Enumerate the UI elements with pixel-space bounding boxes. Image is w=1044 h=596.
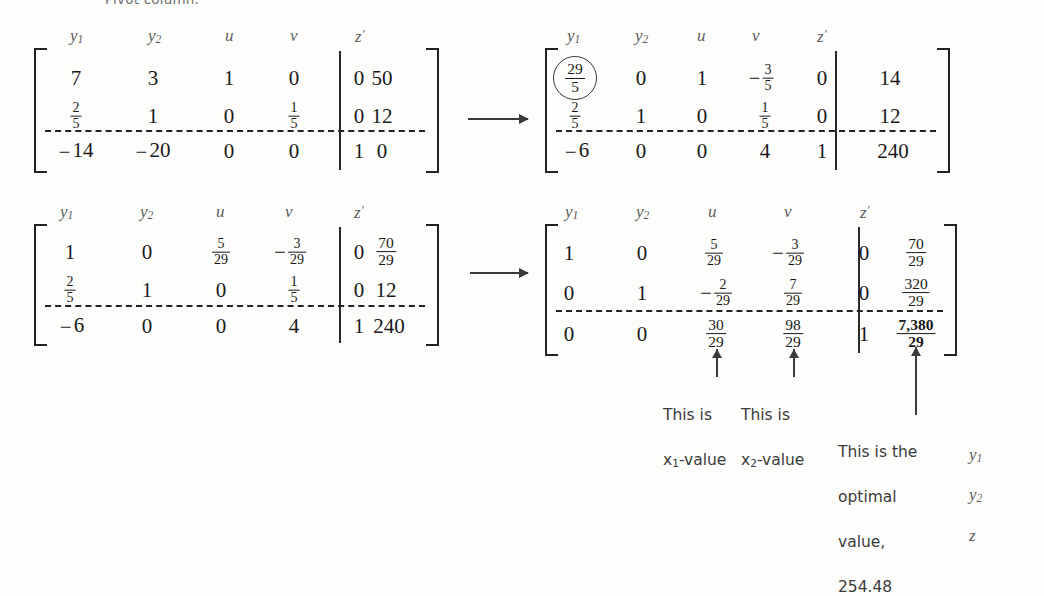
cell-r1-rhs: 12 [372,106,393,127]
cell-r2c1: 0 [636,141,647,162]
cell-r1c0: 25 [65,275,76,306]
tableau-4: y1 y2 u v z′ 1 0 529 −329 0 7029 0 1 −22… [545,202,975,356]
cell-r2c1: −20 [136,140,171,163]
cell-r1c4: 0 [817,106,828,127]
cell-r2-rhs: 240 [373,316,405,337]
cell-r0c2: 529 [705,238,723,269]
bracket-left [34,224,48,346]
col-header-zprime: z′ [355,26,364,47]
cell-r0c3: 0 [289,68,300,89]
cell-r1c3: 729 [784,278,802,309]
cell-r2c2: 3029 [706,317,726,351]
col-header-zprime: z′ [860,202,869,223]
col-header-u: u [697,26,706,46]
col-header-y1: y1 [60,202,73,222]
cell-r2c1: 0 [637,324,648,345]
tableau-1-matrix: 7 3 1 0 0 50 25 1 0 15 0 12 −14 −20 0 0 … [34,48,439,173]
cell-r0c0: 7 [71,68,82,89]
cell-r0c1: 0 [636,68,647,89]
cell-r2c3: 4 [760,141,771,162]
cell-r1c0: 25 [570,101,581,132]
cell-r0c4: 0 [817,68,828,89]
cell-r2c3: 9829 [783,317,803,351]
tableau-4-column-headers: y1 y2 u v z′ [545,202,965,224]
cell-r1c4: 0 [859,283,870,304]
objective-separator [556,310,943,312]
cell-r1c3: 15 [289,101,300,132]
callout-arrow-optimal [915,347,917,415]
tableau-3: y1 y2 u v z′ 1 0 529 −329 0 7029 25 1 0 … [34,202,439,346]
augment-rule [835,51,837,170]
transform-arrow-top [468,118,528,120]
annotation-x2-line2: x2-value [741,449,804,471]
annotation-optimal-line1: This is the [838,441,917,463]
annotation-x2-value: This is x2-value [741,382,804,494]
cell-r2c2: 0 [216,316,227,337]
cell-r0c0: 1 [564,243,575,264]
tableau-4-matrix: 1 0 529 −329 0 7029 0 1 −229 729 0 32029… [545,224,975,356]
col-header-v: v [784,202,792,222]
col-header-y1: y1 [565,202,578,222]
col-header-v: v [290,26,298,46]
cell-r0c1: 0 [637,243,648,264]
annotation-optimal-line3: value, [838,531,917,553]
cell-r0c1: 0 [142,242,153,263]
tableau-2-column-headers: y1 y2 u v z′ [545,26,965,48]
col-header-u: u [216,202,225,222]
annotation-optimal-line2: optimal [838,486,917,508]
cell-r1c4: 0 [354,280,365,301]
cell-r1c2: −229 [700,278,732,309]
cell-r2c4: 1 [817,141,828,162]
cell-r1-rhs: 32029 [902,276,929,310]
cell-r0c0: 1 [65,242,76,263]
col-header-v: v [752,26,760,46]
bracket-right [425,224,439,346]
cell-r1c3: 15 [760,101,771,132]
col-header-y1: y1 [70,26,83,46]
cell-r2c2: 0 [224,141,235,162]
cell-r1c4: 0 [354,106,365,127]
col-header-y2: y2 [635,26,648,46]
cell-r1c1: 1 [142,280,153,301]
pivot-column-caption: Pivot column. [105,0,199,7]
tableau-2: y1 y2 u v z′ 295 0 1 −35 0 14 25 1 0 15 [545,26,965,173]
cell-r0c3: −329 [274,237,306,268]
cell-r0c3: −329 [772,238,804,269]
cell-r1c3: 15 [289,275,300,306]
callout-arrow-x1 [716,349,718,377]
cell-r2-rhs: 7,38029 [897,317,936,351]
row-label-z: z [969,526,976,546]
cell-r1c2: 0 [697,106,708,127]
annotation-optimal-line4: 254.48 [838,576,917,596]
annotation-x2-line1: This is [741,404,804,426]
col-header-y2: y2 [636,202,649,222]
col-header-y1: y1 [567,26,580,46]
cell-r2c0: −6 [60,315,84,338]
cell-r2c4: 1 [354,141,365,162]
col-header-y2: y2 [148,26,161,46]
cell-r2c4: 1 [354,316,365,337]
annotation-x1-line1: This is [663,404,726,426]
objective-separator [45,130,425,132]
cell-r2c2: 0 [697,141,708,162]
annotation-optimal-value: This is the optimal value, 254.48 [838,419,917,596]
col-header-u: u [708,202,717,222]
bracket-left [34,48,48,173]
cell-r0c0: 295 [565,61,585,95]
row-label-y1: y1 [969,445,982,465]
tableau-1: y1 y2 u v z′ 7 3 1 0 0 50 25 1 0 15 0 12 [34,26,439,173]
tableau-1-column-headers: y1 y2 u v z′ [34,26,434,48]
cell-r2c4: 1 [859,324,870,345]
pivot-circle: 295 [553,56,597,100]
cell-r2-rhs: 0 [377,141,388,162]
col-header-zprime: z′ [354,202,363,223]
cell-r0-rhs: 14 [880,68,901,89]
bracket-right [943,224,957,356]
cell-r2c3: 4 [289,316,300,337]
augment-rule [339,227,341,343]
annotation-x1-value: This is x1-value [663,382,726,494]
cell-r2c0: 0 [564,324,575,345]
cell-r0c3: −35 [749,63,774,94]
cell-r0c4: 0 [354,68,365,89]
